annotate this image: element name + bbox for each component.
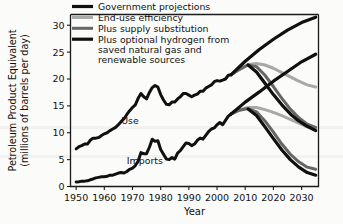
y-axis-title-line1: Petroleum Product Equivalent [7,29,18,171]
y-tick-label: 15 [52,100,64,111]
petroleum-use-imports-chart: 051015202530 195019601970198019902000201… [0,0,343,224]
x-tick-label: 1950 [64,192,88,203]
y-tick-label: 20 [52,73,64,84]
x-tick-label: 1990 [177,192,201,203]
y-tick-label: 25 [52,47,64,58]
x-tick-label: 2030 [289,192,313,203]
y-axis-title-line2: (millions of barrels per day) [19,34,30,167]
series-annotation: Imports [127,155,163,166]
x-tick-label: 2000 [205,192,229,203]
series-annotation: Use [121,115,139,126]
x-tick-label: 1970 [120,192,144,203]
legend-label: Government projections [98,1,210,12]
chart-figure: 051015202530 195019601970198019902000201… [0,0,343,224]
x-axis-title: Year [183,206,206,217]
x-tick-label: 1960 [92,192,116,203]
y-tick-label: 30 [52,20,64,31]
x-tick-label: 2010 [233,192,257,203]
x-tick-label: 1980 [149,192,173,203]
legend-label: Plus supply substitution [98,23,209,34]
x-tick-label: 2020 [261,192,285,203]
y-tick-label: 0 [58,181,64,192]
legend-label: End-use efficiency [98,12,184,23]
y-tick-label: 10 [52,127,64,138]
y-tick-label: 5 [58,154,64,165]
legend-label: renewable sources [98,54,185,65]
